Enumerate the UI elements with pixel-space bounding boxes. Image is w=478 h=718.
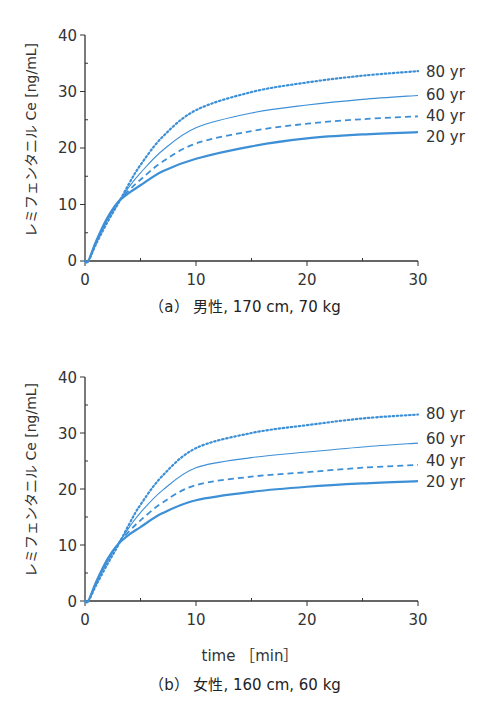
y-tick-a-10: 10 — [58, 196, 77, 214]
curve-20yr — [85, 132, 418, 262]
y-tick-b-30: 30 — [58, 425, 77, 443]
series-label-a-20yr: 20 yr — [426, 128, 466, 146]
series-label-b-40yr: 40 yr — [426, 452, 466, 470]
y-tick-a-0: 0 — [67, 252, 77, 270]
curve-40yr — [85, 465, 418, 602]
y-tick-a-30: 30 — [58, 83, 77, 101]
axes-a — [80, 35, 418, 266]
y-tick-b-20: 20 — [58, 481, 77, 499]
y-tick-b-10: 10 — [58, 537, 77, 555]
y-axis-title-b: レミフェンタニル Ce [ng/mL] — [23, 383, 39, 577]
series-label-b-60yr: 60 yr — [426, 430, 466, 448]
series-label-b-80yr: 80 yr — [426, 405, 466, 423]
x-tick-a-30: 30 — [408, 271, 427, 289]
caption-a: （a） 男性, 170 cm, 70 kg — [149, 298, 340, 316]
chart-panel-b: レミフェンタニル Ce [ng/mL] 0 10 20 30 0 10 20 3… — [23, 369, 466, 694]
y-tick-a-40: 40 — [58, 27, 77, 45]
x-tick-a-0: 0 — [80, 271, 90, 289]
x-tick-b-10: 10 — [186, 611, 205, 629]
y-axis-title-a: レミフェンタニル Ce [ng/mL] — [23, 43, 39, 237]
figure: レミフェンタニル Ce [ng/mL] 0 10 20 30 0 10 20 3… — [0, 0, 478, 718]
curves-b — [85, 415, 418, 603]
curve-20yr — [85, 481, 418, 602]
curve-60yr — [85, 95, 418, 262]
caption-b: （b） 女性, 160 cm, 60 kg — [149, 676, 341, 694]
curve-80yr — [85, 71, 418, 262]
x-tick-b-0: 0 — [80, 611, 90, 629]
series-label-a-60yr: 60 yr — [426, 86, 466, 104]
chart-panel-a: レミフェンタニル Ce [ng/mL] 0 10 20 30 0 10 20 3… — [23, 27, 466, 316]
x-tick-a-20: 20 — [297, 271, 316, 289]
series-label-b-20yr: 20 yr — [426, 473, 466, 491]
x-tick-b-30: 30 — [408, 611, 427, 629]
x-tick-b-20: 20 — [297, 611, 316, 629]
y-tick-a-20: 20 — [58, 139, 77, 157]
series-label-a-80yr: 80 yr — [426, 63, 466, 81]
y-tick-b-0: 0 — [67, 593, 77, 611]
curve-80yr — [85, 415, 418, 603]
x-tick-a-10: 10 — [186, 271, 205, 289]
y-tick-b-40: 40 — [58, 369, 77, 387]
curves-a — [85, 71, 418, 262]
series-label-a-40yr: 40 yr — [426, 107, 466, 125]
x-axis-title-b: time ［min］ — [202, 647, 299, 665]
